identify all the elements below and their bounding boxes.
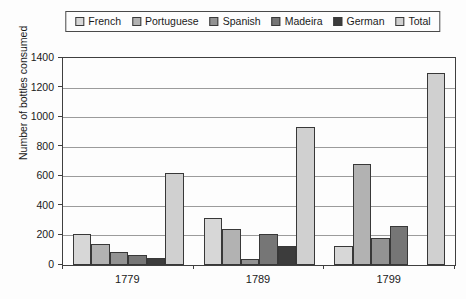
y-tick-label-800: 800 — [4, 141, 54, 152]
legend-swatch-madeira — [272, 17, 281, 26]
legend-swatch-total — [396, 17, 405, 26]
y-tick-mark — [58, 57, 62, 58]
legend-label: French — [88, 16, 121, 27]
bar-spanish-1779 — [110, 252, 129, 265]
gridline-800 — [63, 147, 455, 148]
gridline-1000 — [63, 117, 455, 118]
x-tick-mark — [454, 265, 455, 269]
y-tick-mark — [58, 86, 62, 87]
legend-item-german: German — [334, 16, 385, 27]
gridline-600 — [63, 176, 455, 177]
bar-total-1789 — [296, 127, 315, 265]
x-category-label-1789: 1789 — [246, 274, 270, 285]
legend-label: Total — [409, 16, 431, 27]
y-tick-label-600: 600 — [4, 170, 54, 181]
legend-label: German — [347, 16, 385, 27]
legend-item-french: French — [75, 16, 121, 27]
bar-madeira-1789 — [259, 234, 278, 265]
legend-item-madeira: Madeira — [272, 16, 323, 27]
legend-swatch-german — [334, 17, 343, 26]
legend-label: Spanish — [223, 16, 261, 27]
bar-portuguese-1789 — [222, 229, 241, 265]
bar-german-1789 — [278, 246, 297, 265]
y-tick-mark — [58, 145, 62, 146]
y-tick-mark — [58, 204, 62, 205]
gridline-1200 — [63, 88, 455, 89]
bar-madeira-1799 — [390, 226, 409, 265]
bar-chart-figure: FrenchPortugueseSpanishMadeiraGermanTota… — [0, 0, 466, 299]
y-tick-label-200: 200 — [4, 229, 54, 240]
y-tick-label-400: 400 — [4, 200, 54, 211]
plot-area — [62, 57, 456, 266]
y-tick-label-0: 0 — [4, 259, 54, 270]
legend-swatch-portuguese — [132, 17, 141, 26]
legend-swatch-french — [75, 17, 84, 26]
y-tick-mark — [58, 175, 62, 176]
bar-portuguese-1779 — [91, 244, 110, 265]
y-tick-mark — [58, 116, 62, 117]
bar-german-1779 — [147, 258, 166, 265]
bar-total-1779 — [165, 173, 184, 265]
legend-item-total: Total — [396, 16, 431, 27]
y-tick-mark — [58, 234, 62, 235]
bar-french-1789 — [204, 218, 223, 265]
y-tick-label-1400: 1400 — [4, 52, 54, 63]
bar-spanish-1789 — [241, 259, 260, 265]
x-tick-mark — [62, 265, 63, 269]
x-tick-mark — [193, 265, 194, 269]
legend-item-portuguese: Portuguese — [132, 16, 199, 27]
legend: FrenchPortugueseSpanishMadeiraGermanTota… — [65, 11, 440, 32]
x-category-label-1799: 1799 — [376, 274, 400, 285]
bar-spanish-1799 — [371, 238, 390, 265]
legend-swatch-spanish — [210, 17, 219, 26]
x-tick-mark — [323, 265, 324, 269]
gridline-400 — [63, 206, 455, 207]
bar-french-1799 — [334, 246, 353, 265]
bar-madeira-1779 — [128, 255, 147, 265]
y-tick-label-1200: 1200 — [4, 82, 54, 93]
legend-label: Madeira — [285, 16, 323, 27]
x-category-label-1779: 1779 — [115, 274, 139, 285]
y-tick-label-1000: 1000 — [4, 111, 54, 122]
legend-item-spanish: Spanish — [210, 16, 261, 27]
bar-portuguese-1799 — [353, 164, 372, 265]
bar-total-1799 — [427, 73, 446, 265]
bar-french-1779 — [73, 234, 92, 265]
legend-label: Portuguese — [145, 16, 199, 27]
